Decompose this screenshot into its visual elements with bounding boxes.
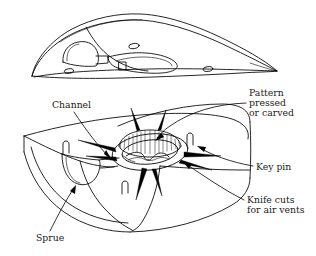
label-key-pin: Key pin: [256, 161, 291, 172]
label-pattern-line3: or carved: [249, 107, 294, 118]
label-knife-cuts-line2: for air vents: [247, 204, 305, 215]
diagram-canvas: Channel Pattern pressed or carved Key pi…: [0, 0, 316, 256]
canvas-background: [0, 0, 316, 256]
label-sprue: Sprue: [36, 232, 65, 243]
mold-diagram-figure: Channel Pattern pressed or carved Key pi…: [0, 0, 316, 256]
label-channel: Channel: [52, 99, 91, 110]
